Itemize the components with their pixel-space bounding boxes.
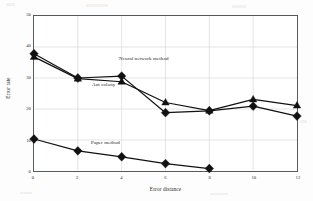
scan-speckle — [232, 5, 246, 8]
plot-area: Neural network method Ant colony Paper m… — [33, 15, 298, 172]
x-tick-label: 2 — [67, 176, 87, 181]
series-annotations: Neural network method Ant colony Paper m… — [34, 16, 297, 171]
y-tick-label: 50 — [5, 13, 31, 18]
scan-speckle — [300, 120, 307, 123]
x-tick-label: 12 — [288, 176, 308, 181]
x-tick-label: 10 — [244, 176, 264, 181]
scan-speckle — [210, 193, 228, 195]
x-tick-label: 6 — [156, 176, 176, 181]
scan-speckle — [6, 3, 15, 6]
annotation-neural-network-method: Neural network method — [119, 56, 169, 61]
x-tick-label: 4 — [111, 176, 131, 181]
x-tick-label: 8 — [200, 176, 220, 181]
x-axis-title: Error distance — [33, 186, 298, 192]
annotation-paper-method: Paper method — [91, 140, 120, 145]
chart-page: 50 40 30 20 10 0 — [0, 0, 313, 201]
y-axis-title: Error rate — [5, 64, 11, 112]
x-tick-label: 0 — [23, 176, 43, 181]
scan-speckle — [20, 192, 32, 194]
y-tick-label: 40 — [5, 44, 31, 49]
y-tick-label: 10 — [5, 139, 31, 144]
scan-speckle — [86, 4, 108, 7]
annotation-ant-colony: Ant colony — [92, 82, 115, 87]
y-tick-label: 0 — [5, 170, 31, 175]
x-axis-tick-labels: 0 2 4 6 8 10 12 — [33, 176, 298, 185]
